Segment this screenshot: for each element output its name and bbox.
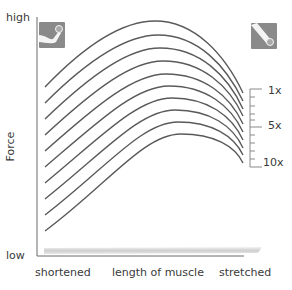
curve-1x [45, 21, 243, 93]
contracted-arm-icon [39, 22, 65, 48]
x-axis-left-label: shortened [35, 266, 91, 279]
extended-arm-icon [251, 23, 277, 49]
y-axis-high-label: high [6, 11, 30, 24]
baseline-band [44, 247, 262, 254]
curve-6x [45, 86, 243, 167]
force-curves [45, 21, 243, 231]
scale-label-1x: 1x [268, 84, 282, 97]
scale-label-5x: 5x [268, 119, 282, 132]
curve-9x [45, 122, 243, 215]
y-axis-low-label: low [6, 249, 25, 262]
curve-7x [45, 98, 243, 183]
scale-label-10x: 10x [263, 156, 284, 169]
scale-bracket [250, 89, 262, 167]
y-axis-title: Force [4, 132, 17, 162]
curve-10x [45, 134, 243, 231]
curve-8x [45, 110, 243, 199]
x-axis-right-label: stretched [219, 266, 271, 279]
x-axis-title: length of muscle [112, 266, 204, 279]
